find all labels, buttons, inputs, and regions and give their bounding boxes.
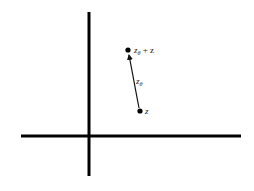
point-z-theta-plus-z	[125, 47, 130, 52]
label-z-theta-plus-z: zθ + z	[133, 45, 154, 56]
point-z	[137, 108, 142, 113]
label-arrow-z-theta: zθ	[135, 76, 143, 87]
label-z: z	[144, 106, 149, 116]
diagram-canvas: zθ + z z zθ	[0, 0, 254, 191]
